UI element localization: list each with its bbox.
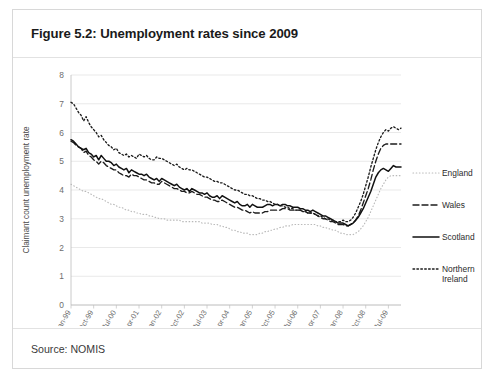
x-tick-label: Jan-05: [235, 309, 254, 327]
chart-area: 012345678 Jan-99Oct-99Jul-00Apr-01Jan-02…: [13, 58, 481, 326]
x-tick-label: Oct-99: [76, 309, 95, 327]
x-tick-label: Oct-02: [167, 309, 186, 327]
x-tick-label: Oct-05: [258, 309, 277, 327]
x-tick-label: Oct-08: [348, 309, 367, 327]
x-tick-label: Jul-09: [372, 309, 390, 327]
y-tick-label: 7: [59, 99, 64, 109]
x-tick-label: Apr-07: [303, 309, 322, 327]
figure-card: Figure 5.2: Unemployment rates since 200…: [12, 9, 482, 369]
y-tick-label: 4: [59, 185, 64, 195]
x-tick-label: Jul-06: [281, 309, 299, 327]
x-tick-label: Jan-99: [53, 309, 72, 327]
legend-label-scotland: Scotland: [442, 232, 475, 242]
y-tick-label: 2: [59, 243, 64, 253]
x-tick-label: Jan-08: [325, 309, 344, 327]
source-divider: [13, 328, 481, 329]
y-tick-label: 5: [59, 156, 64, 166]
source-note: Source: NOMIS: [31, 343, 105, 355]
legend-label-nireland: Northern: [442, 264, 475, 274]
x-tick-label: Jul-03: [191, 309, 209, 327]
chart-legend: EnglandWalesScotlandNorthernIreland: [413, 168, 475, 284]
x-tick-label: Apr-04: [212, 309, 231, 327]
x-axis-tick-labels: Jan-99Oct-99Jul-00Apr-01Jan-02Oct-02Jul-…: [53, 309, 390, 327]
series-lines: [71, 102, 401, 234]
series-line-northern-ireland: [71, 102, 401, 221]
figure-title: Figure 5.2: Unemployment rates since 200…: [31, 26, 298, 41]
x-tick-label: Apr-01: [122, 309, 141, 327]
y-tick-label: 8: [59, 70, 64, 80]
legend-label-nireland: Ireland: [442, 274, 468, 284]
legend-label-wales: Wales: [442, 200, 465, 210]
y-tick-label: 6: [59, 128, 64, 138]
series-line-england: [71, 176, 401, 235]
x-tick-label: Jul-00: [100, 309, 118, 327]
x-tick-label: Jan-02: [144, 309, 163, 327]
y-axis-tick-labels: 012345678: [59, 70, 64, 310]
y-tick-label: 1: [59, 271, 64, 281]
legend-label-england: England: [442, 168, 473, 178]
y-axis-title: Claimant count unemployment rate: [22, 126, 31, 253]
tick-marks: [71, 305, 388, 309]
y-tick-label: 3: [59, 214, 64, 224]
series-line-scotland: [71, 140, 401, 226]
unemployment-line-chart: 012345678 Jan-99Oct-99Jul-00Apr-01Jan-02…: [13, 58, 481, 326]
y-tick-label: 0: [59, 300, 64, 310]
